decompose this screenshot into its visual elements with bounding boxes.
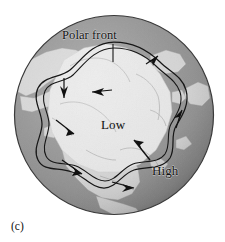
label-high-pressure: High	[152, 163, 178, 179]
figure-panel-c: Polar front Low High (c)	[0, 0, 225, 242]
label-low-pressure: Low	[101, 117, 125, 133]
figure-caption-label: (c)	[11, 220, 24, 232]
label-polar-front: Polar front	[62, 28, 117, 43]
